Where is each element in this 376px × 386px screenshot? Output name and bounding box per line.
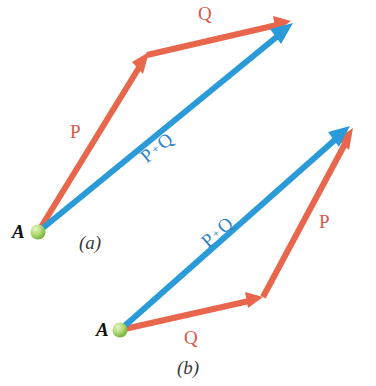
panel-b-point-marker [113, 323, 128, 338]
panel-b-vector-p [263, 128, 353, 297]
vector-addition-figure: P Q P+Q A (a) Q P P+Q A (b) [0, 0, 376, 386]
panel-b-label-q: Q [184, 328, 198, 347]
panel-a-origin-label: A [12, 222, 25, 241]
panel-a-point-marker [31, 225, 46, 240]
panel-a-vector-p [38, 52, 149, 232]
panel-b-caption: (b) [177, 358, 199, 377]
panel-a-label-q: Q [198, 4, 212, 23]
panel-b-origin-label: A [96, 320, 109, 339]
panel-a-label-p: P [70, 122, 81, 141]
panel-a-caption: (a) [79, 233, 101, 252]
panel-a-vector-q [147, 16, 291, 55]
panel-b-label-p: P [319, 212, 330, 231]
